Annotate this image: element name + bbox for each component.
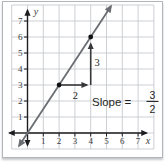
plot-content: 23 [19,6,111,145]
slope-line-graph: 12345671234567 23 x y Slope = 3 2 [0,0,165,163]
x-axis-label: x [145,135,151,146]
x-tick-label: 6 [120,136,125,146]
y-tick-label: 2 [18,96,23,106]
fraction-numerator: 3 [150,89,156,101]
x-tick-label: 2 [57,136,62,146]
y-tick-label: 4 [18,64,23,74]
axes [10,11,147,146]
y-axis-label: y [33,6,39,17]
x-tick-label: 4 [88,136,93,146]
x-tick-label: 7 [136,136,141,146]
y-tick-label: 5 [18,48,23,58]
run-label: 2 [73,90,78,101]
rise-label: 3 [95,57,100,68]
x-tick-label: 3 [73,136,78,146]
slope-line [59,6,111,85]
data-point [88,35,93,40]
slope-line [19,85,59,146]
x-tick-label: 5 [104,136,109,146]
x-tick-label: 1 [41,136,46,146]
grid-lines [12,5,154,149]
slope-annotation-label: Slope = [92,96,132,108]
fraction-denominator: 2 [150,103,156,115]
y-tick-label: 1 [18,112,23,122]
y-tick-label: 6 [18,32,23,42]
y-tick-label: 3 [18,80,23,90]
graph-figure: 12345671234567 23 x y Slope = 3 2 [0,0,165,163]
slope-annotation: Slope = 3 2 [92,89,159,115]
y-tick-label: 7 [18,16,23,26]
data-point [57,83,62,88]
